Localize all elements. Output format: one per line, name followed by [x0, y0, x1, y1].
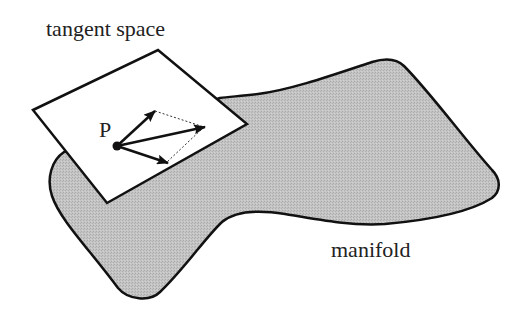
point-label: P: [99, 117, 111, 142]
point-p-dot: [113, 142, 122, 151]
tangent-space-diagram: P tangent space manifold: [0, 0, 527, 318]
tangent-space-label: tangent space: [46, 16, 165, 41]
manifold-label: manifold: [331, 237, 410, 262]
